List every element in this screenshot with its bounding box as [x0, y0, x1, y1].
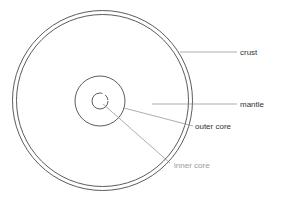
crust-shell: [13, 11, 193, 191]
crust-label: crust: [240, 48, 258, 57]
inner-core-leader-line: [103, 104, 170, 163]
outer-core-label: outer core: [195, 122, 232, 131]
inner-core-label: inner core: [174, 161, 210, 170]
outer-core-circle: [75, 76, 125, 126]
mantle-label: mantle: [240, 100, 265, 109]
crust-outer-edge: [13, 11, 193, 191]
outer-core-leader-line: [124, 108, 193, 126]
earth-layers-diagram: crust mantle outer core inner core: [0, 0, 284, 200]
crust-inner-edge: [17, 15, 189, 187]
